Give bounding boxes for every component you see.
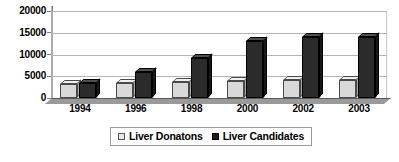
bar-donations-2003 xyxy=(339,80,356,98)
bar-side xyxy=(263,37,267,98)
bar-candidates-2003 xyxy=(358,37,375,98)
x-axis-tick-label: 1996 xyxy=(108,101,164,117)
bar-candidates-2002 xyxy=(302,37,319,98)
bar-side xyxy=(208,53,212,98)
bar-donations-1994 xyxy=(60,84,77,98)
y-axis-tick-label: 10000 xyxy=(0,50,46,60)
y-axis-tick-label: 15000 xyxy=(0,28,46,38)
bar-face xyxy=(283,80,300,98)
bar-donations-1998 xyxy=(172,82,189,98)
bar-face xyxy=(339,80,356,98)
bar-face xyxy=(358,37,375,98)
bar-side xyxy=(375,32,379,98)
bar-face xyxy=(227,81,244,98)
x-axis: 1994 1996 1998 2000 2002 2003 xyxy=(52,101,387,117)
legend-swatch-icon xyxy=(212,133,219,140)
chart-legend: Liver Donatons Liver Candidates xyxy=(110,127,312,146)
bar-donations-1996 xyxy=(116,83,133,98)
bar-group-1998 xyxy=(164,11,220,98)
bar-face xyxy=(246,41,263,98)
bar-face xyxy=(172,82,189,98)
legend-item-candidates: Liver Candidates xyxy=(212,131,304,142)
bar-group-1994 xyxy=(52,11,108,98)
bar-group-1996 xyxy=(108,11,164,98)
bars-layer xyxy=(52,11,387,98)
bar-chart: 20000 15000 10000 5000 0 xyxy=(0,0,399,162)
y-axis-tick-label: 0 xyxy=(0,93,46,103)
legend-label: Liver Donatons xyxy=(129,131,203,142)
legend-item-donations: Liver Donatons xyxy=(118,131,203,142)
bar-face xyxy=(79,83,96,98)
bar-candidates-1996 xyxy=(135,72,152,98)
legend-swatch-icon xyxy=(118,133,125,140)
x-axis-tick-label: 2003 xyxy=(331,101,387,117)
bar-donations-2002 xyxy=(283,80,300,98)
bar-candidates-1998 xyxy=(191,58,208,98)
x-axis-tick-label: 1998 xyxy=(164,101,220,117)
bar-side xyxy=(319,33,323,98)
y-axis: 20000 15000 10000 5000 0 xyxy=(0,11,46,98)
bar-face xyxy=(116,83,133,98)
bar-group-2002 xyxy=(275,11,331,98)
bar-candidates-2000 xyxy=(246,41,263,98)
y-axis-tick-label: 5000 xyxy=(0,71,46,81)
bar-face xyxy=(302,37,319,98)
bar-face xyxy=(191,58,208,98)
y-axis-tick-label: 20000 xyxy=(0,6,46,16)
bar-group-2003 xyxy=(331,11,387,98)
x-axis-tick-label: 2002 xyxy=(275,101,331,117)
bar-group-2000 xyxy=(219,11,275,98)
x-axis-tick-label: 1994 xyxy=(52,101,108,117)
bar-face xyxy=(60,84,77,98)
plot-area xyxy=(52,11,387,98)
bar-face xyxy=(135,72,152,98)
bar-candidates-1994 xyxy=(79,83,96,98)
x-axis-tick-label: 2000 xyxy=(219,101,275,117)
legend-label: Liver Candidates xyxy=(223,131,304,142)
bar-donations-2000 xyxy=(227,81,244,98)
